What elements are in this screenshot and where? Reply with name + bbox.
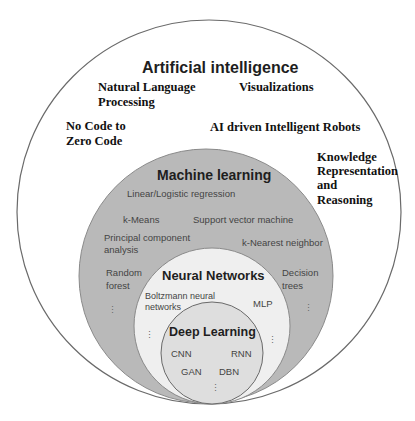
ml-item-kmeans: k-Means: [123, 214, 159, 226]
ai-item-krr-4: Reasoning: [317, 193, 373, 208]
dl-item-cnn: CNN: [171, 348, 192, 360]
ai-item-nlp-1: Natural Language: [98, 80, 196, 95]
ai-item-nocode-1: No Code to: [66, 119, 126, 134]
ml-item-dt-2: trees: [282, 280, 303, 292]
ai-item-robots: AI driven Intelligent Robots: [210, 120, 360, 135]
dl-ellipsis-icon: ⋮: [211, 386, 215, 390]
ai-item-nocode-2: Zero Code: [66, 134, 122, 149]
ai-item-krr-3: and: [317, 178, 337, 193]
ml-item-regression: Linear/Logistic regression: [127, 188, 235, 200]
ml-item-knn: k-Nearest neighbor: [242, 237, 323, 249]
ai-item-nlp-2: Processing: [98, 95, 155, 110]
ml-item-rf-2: forest: [106, 280, 130, 292]
ml-title: Machine learning: [157, 167, 271, 183]
ml-item-dt-1: Decision: [282, 267, 318, 279]
dl-item-gan: GAN: [181, 366, 202, 378]
dl-item-dbn: DBN: [219, 366, 239, 378]
nn-item-mlp: MLP: [253, 298, 273, 310]
dl-title: Deep Learning: [169, 325, 256, 339]
ml-item-svm: Support vector machine: [193, 214, 293, 226]
nn-title: Neural Networks: [162, 268, 265, 283]
nn-item-boltzmann-2: networks: [145, 301, 181, 313]
ml-item-rf-1: Random: [106, 267, 142, 279]
ml-ellipsis-right-icon: ⋮: [304, 306, 308, 310]
nn-ellipsis-right-icon: ⋮: [268, 338, 272, 342]
nn-ellipsis-left-icon: ⋮: [145, 333, 149, 337]
ml-item-pca-1: Principal component: [104, 232, 190, 244]
ai-item-visualizations: Visualizations: [239, 80, 314, 95]
ai-title: Artificial intelligence: [142, 59, 298, 77]
ml-item-pca-2: analysis: [104, 244, 138, 256]
dl-item-rnn: RNN: [231, 348, 252, 360]
ai-item-krr-2: Representation: [317, 164, 398, 179]
ai-item-krr-1: Knowledge: [317, 150, 377, 165]
ml-ellipsis-left-icon: ⋮: [108, 308, 112, 312]
